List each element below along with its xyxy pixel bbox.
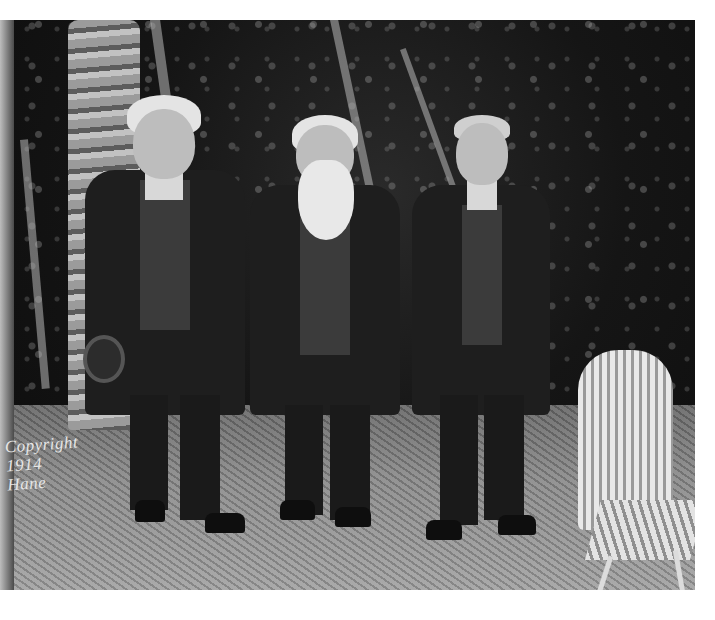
person-left — [85, 95, 250, 535]
historical-photograph: Copyright 1914 Hane — [0, 20, 695, 590]
hat — [83, 335, 125, 383]
photo-edge — [0, 20, 14, 590]
copyright-watermark: Copyright 1914 Hane — [4, 433, 81, 495]
wicker-chair — [578, 350, 695, 590]
person-right — [412, 115, 552, 545]
person-center — [250, 115, 400, 535]
